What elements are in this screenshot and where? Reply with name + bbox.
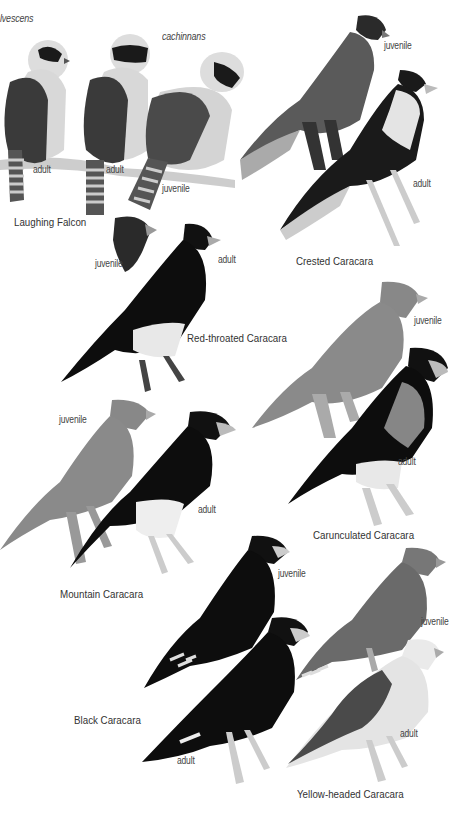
age-label-adult: adult xyxy=(33,164,51,175)
age-label-juvenile: juvenile xyxy=(421,616,448,627)
laughing-falcon-illustration xyxy=(0,20,240,210)
age-label-juvenile: juvenile xyxy=(384,40,411,51)
age-label-adult: adult xyxy=(198,504,216,515)
age-label-juvenile: juvenile xyxy=(59,414,86,425)
species-name-yellow-headed-caracara: Yellow-headed Caracara xyxy=(297,788,404,800)
crested-caracara-illustration xyxy=(240,10,473,260)
age-label-juvenile: juvenile xyxy=(414,315,441,326)
yellow-headed-caracara-illustration xyxy=(282,544,452,784)
age-label-adult: adult xyxy=(398,456,416,467)
age-label-adult: adult xyxy=(413,178,431,189)
age-label-juvenile: juvenile xyxy=(95,258,122,269)
subspecies-label-cachinnans: cachinnans xyxy=(162,30,205,42)
species-name-carunculated-caracara: Carunculated Caracara xyxy=(313,529,414,541)
subspecies-label-fulvescens: lvescens xyxy=(0,12,33,24)
black-caracara-illustration xyxy=(140,532,300,786)
age-label-adult: adult xyxy=(177,755,195,766)
species-name-crested-caracara: Crested Caracara xyxy=(296,255,373,267)
field-guide-plate: lvescens cachinnans adult adult juvenile… xyxy=(0,0,473,814)
age-label-juvenile: juvenile xyxy=(162,183,189,194)
species-name-black-caracara: Black Caracara xyxy=(74,714,141,726)
species-name-mountain-caracara: Mountain Caracara xyxy=(60,588,143,600)
age-label-adult: adult xyxy=(106,164,124,175)
red-throated-caracara-illustration xyxy=(55,210,245,390)
age-label-adult: adult xyxy=(400,728,418,739)
age-label-adult: adult xyxy=(218,254,236,265)
